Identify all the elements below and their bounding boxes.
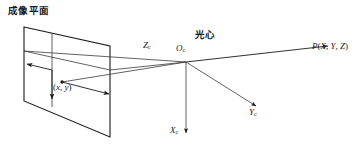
world-point-close-paren: ) — [345, 41, 348, 51]
axis-Yc-label: Yc — [249, 108, 257, 118]
optical-axis-group — [24, 51, 186, 70]
optical-center-subscript-text: c — [183, 46, 186, 53]
optical-axis-mid-segment — [110, 62, 186, 70]
axis-Xc-subscript: c — [176, 128, 179, 135]
camera-axes-group — [186, 62, 256, 133]
axis-Zc-label: Zc — [143, 41, 151, 51]
projection-ray-group — [60, 46, 328, 94]
image-point-label: (x, y) — [53, 83, 72, 92]
image-plane-x-arrow — [27, 64, 52, 70]
ray-optical-center-to-image-point — [62, 62, 186, 82]
axis-Xc-label: Xc — [170, 126, 178, 136]
axis-Yc-subscript: c — [254, 110, 257, 117]
world-point-label: P(X, Y, Z) — [312, 42, 348, 51]
diagram-canvas — [0, 0, 361, 147]
image-point-close-paren: ) — [69, 82, 72, 92]
projection-diagram: 成像平面 光心 Oc Zc Xc Yc (x, y) P(X, Y, Z) — [0, 0, 361, 147]
optical-center-symbol-label: Oc — [176, 44, 185, 54]
axis-Zc-subscript: c — [148, 43, 151, 50]
image-plane-label: 成像平面 — [8, 6, 49, 16]
ray-to-world-point — [186, 46, 328, 62]
optical-center-label: 光心 — [195, 30, 216, 40]
image-plane-axes-group — [24, 33, 110, 107]
axis-Yc-line — [186, 62, 256, 106]
